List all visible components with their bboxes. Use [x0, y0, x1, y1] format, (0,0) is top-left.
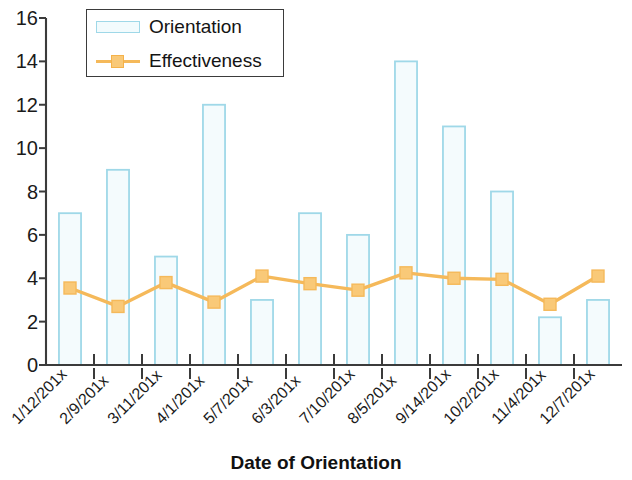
legend-label-effectiveness: Effectiveness — [149, 50, 262, 72]
legend-item-orientation: Orientation — [87, 10, 285, 44]
data-point-marker — [544, 298, 556, 310]
data-point-marker — [208, 296, 220, 308]
legend-swatch-line-marker-icon — [87, 44, 149, 78]
bar — [203, 105, 225, 365]
effectiveness-line — [70, 273, 598, 307]
data-point-marker — [112, 300, 124, 312]
bar — [107, 170, 129, 365]
data-point-marker — [304, 278, 316, 290]
chart-container: 0246810121416 1/12/201x2/9/201x3/11/201x… — [0, 0, 632, 480]
bar — [251, 300, 273, 365]
data-point-marker — [256, 270, 268, 282]
legend-label-orientation: Orientation — [149, 16, 242, 38]
data-point-marker — [448, 272, 460, 284]
bar — [443, 126, 465, 365]
bar — [587, 300, 609, 365]
bar — [155, 257, 177, 365]
bar — [347, 235, 369, 365]
chart-legend: Orientation Effectiveness — [86, 9, 284, 77]
line-series-effectiveness — [70, 273, 598, 307]
bar-series-orientation — [59, 61, 609, 365]
data-point-marker — [160, 277, 172, 289]
bar — [539, 317, 561, 365]
data-point-marker — [352, 284, 364, 296]
data-point-marker — [400, 267, 412, 279]
bar — [395, 61, 417, 365]
data-point-marker — [64, 282, 76, 294]
x-axis-title: Date of Orientation — [0, 452, 632, 474]
legend-item-effectiveness: Effectiveness — [87, 44, 285, 78]
data-point-marker — [592, 270, 604, 282]
legend-swatch-bar-icon — [87, 10, 149, 44]
data-point-marker — [496, 273, 508, 285]
